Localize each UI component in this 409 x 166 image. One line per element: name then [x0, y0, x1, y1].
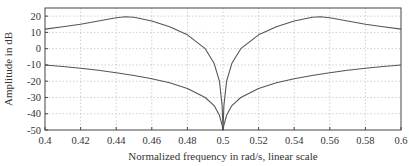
x-tick-label: 0.42	[71, 135, 89, 146]
x-axis-label: Normalized frequency in rad/s, linear sc…	[128, 150, 317, 162]
y-tick-label: 0	[36, 43, 41, 54]
x-tick-label: 0.4	[38, 135, 52, 146]
y-tick-label: -20	[27, 76, 41, 87]
y-tick-label: -50	[27, 125, 41, 136]
x-tick-label: 0.44	[107, 135, 126, 146]
y-tick-label: 20	[31, 11, 42, 22]
x-tick-label: 0.52	[249, 135, 267, 146]
x-tick-label: 0.6	[394, 135, 407, 146]
y-tick-label: 10	[31, 27, 42, 38]
y-tick-label: -10	[27, 59, 41, 70]
y-axis-label: Amplitude in dB	[2, 32, 14, 106]
x-tick-label: 0.48	[178, 135, 196, 146]
y-tick-label: -40	[27, 108, 41, 119]
x-tick-label: 0.58	[356, 135, 374, 146]
grid-lines	[45, 8, 401, 130]
y-tick-label: -30	[27, 92, 41, 103]
x-tick-label: 0.5	[216, 135, 229, 146]
amplitude-chart: 0.40.420.440.460.480.50.520.540.560.580.…	[0, 0, 409, 166]
x-tick-label: 0.56	[321, 135, 339, 146]
x-tick-label: 0.54	[285, 135, 304, 146]
x-tick-label: 0.46	[143, 135, 161, 146]
